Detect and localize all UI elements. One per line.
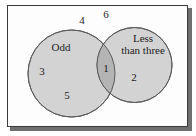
element-1: 1 <box>100 63 112 74</box>
set-label-less-than-three-line1: Less <box>112 33 174 45</box>
element-5: 5 <box>61 90 73 101</box>
set-label-odd: Odd <box>38 42 84 54</box>
venn-circles-graphic <box>0 0 196 136</box>
set-label-less-than-three: Less than three <box>112 33 174 56</box>
set-label-less-than-three-line2: than three <box>112 45 174 57</box>
element-3: 3 <box>36 66 48 77</box>
element-2: 2 <box>128 72 140 83</box>
element-6: 6 <box>100 9 112 20</box>
venn-diagram-figure: Odd Less than three 4 6 3 5 1 2 <box>0 0 196 136</box>
element-4: 4 <box>76 15 88 26</box>
